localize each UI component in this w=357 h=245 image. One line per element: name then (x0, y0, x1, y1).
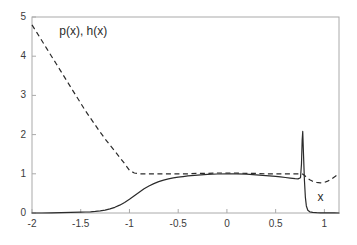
y-tick-label: 0 (0, 208, 26, 218)
x-tick-label: 1 (304, 219, 344, 229)
x-tick-label: -2 (12, 219, 52, 229)
y-tick-label: 5 (0, 12, 26, 22)
y-tick-label: 3 (0, 90, 26, 100)
y-tick-label: 1 (0, 169, 26, 179)
x-tick-label: -1 (109, 219, 149, 229)
plot-area (0, 0, 357, 245)
x-axis-label: x (318, 191, 324, 203)
x-tick-label: -0.5 (158, 219, 198, 229)
y-tick-label: 2 (0, 130, 26, 140)
x-tick-label: 0.5 (256, 219, 296, 229)
plot-frame (32, 17, 339, 213)
x-tick-label: 0 (207, 219, 247, 229)
x-tick-label: -1.5 (61, 219, 101, 229)
figure-canvas: 012345 -2-1.5-1-0.500.51 p(x), h(x) x (0, 0, 357, 245)
y-tick-label: 4 (0, 51, 26, 61)
y-axis-label: p(x), h(x) (59, 25, 107, 37)
